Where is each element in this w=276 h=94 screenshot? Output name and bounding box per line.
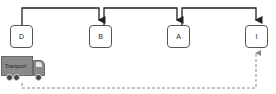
node-b[interactable]: B xyxy=(89,25,112,48)
edge-d-b xyxy=(22,8,99,25)
edge-transport-i xyxy=(22,53,256,88)
node-label: D xyxy=(19,33,24,40)
node-a[interactable]: A xyxy=(167,25,190,48)
transport-label: Transport xyxy=(5,63,26,69)
truck-icon[interactable]: Transport xyxy=(1,56,47,84)
truck-window xyxy=(36,62,42,67)
node-label: I xyxy=(256,33,258,40)
truck-cargo: Transport xyxy=(1,56,33,76)
wheel-icon xyxy=(13,74,20,81)
node-i[interactable]: I xyxy=(245,25,268,48)
node-label: B xyxy=(98,33,103,40)
node-d[interactable]: D xyxy=(10,25,33,48)
edge-b-a xyxy=(104,8,177,25)
edge-a-i xyxy=(182,8,256,25)
wheel-icon xyxy=(35,74,42,81)
node-label: A xyxy=(176,33,181,40)
wheel-icon xyxy=(6,74,13,81)
